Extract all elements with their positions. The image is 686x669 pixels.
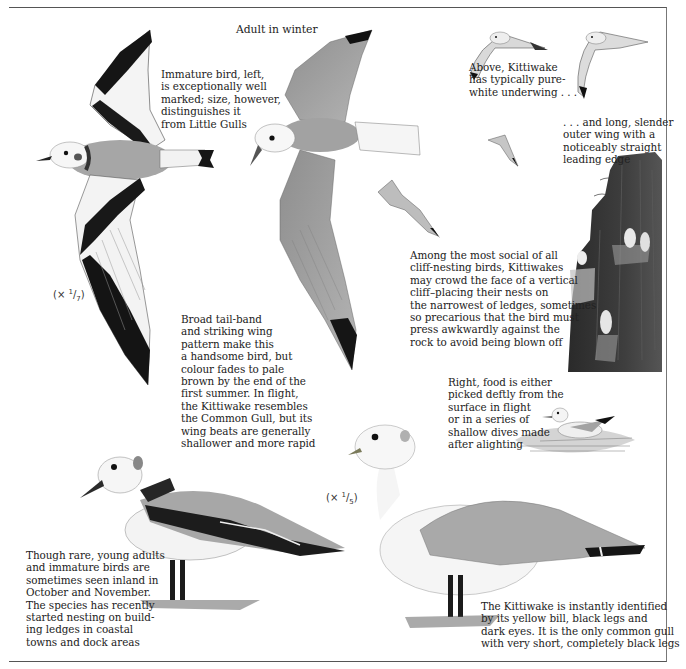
scale-flight-suffix: ) [81, 289, 85, 300]
scale-standing-prefix: (× [326, 492, 341, 503]
caption-identification: The Kittiwake is instantly identified by… [481, 600, 680, 650]
caption-tail-band: Broad tail-band and striking wing patter… [181, 313, 315, 449]
caption-young-adults: Though rare, young adults and immature b… [26, 549, 165, 648]
kittiwake-outer-wing-small [578, 32, 648, 99]
scale-flight-prefix: (× [53, 289, 68, 300]
caption-feeding: Right, food is either picked deftly from… [448, 376, 564, 450]
caption-cliff-nesting: Among the most social of all cliff-nesti… [410, 249, 596, 348]
adult-kittiwake-standing [348, 425, 645, 628]
caption-underwing: Above, Kittiwake has typically pure- whi… [469, 61, 577, 98]
heading-adult-in-winter: Adult in winter [236, 24, 318, 36]
caption-immature-bird: Immature bird, left, is exceptionally we… [161, 68, 281, 130]
scale-standing: (× 1/5) [326, 491, 358, 506]
scale-flight-num: 1 [68, 288, 72, 296]
caption-outer-wing: . . . and long, slender outer wing with … [563, 116, 673, 166]
scale-flight: (× 1/7) [53, 288, 85, 303]
scale-standing-num: 1 [341, 491, 345, 499]
scale-standing-suffix: ) [354, 492, 358, 503]
